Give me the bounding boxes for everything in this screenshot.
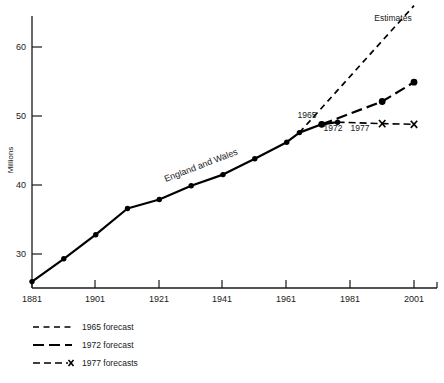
x-tick-label-2001: 2001 xyxy=(404,294,424,304)
data-point-marker xyxy=(189,183,194,188)
y-tick-label-50: 50 xyxy=(16,111,26,121)
legend-item-1972-forecast[interactable]: 1972 forecast xyxy=(33,340,134,350)
series-label-england-and-wales: England and Wales xyxy=(163,146,240,183)
x-tick-label-1981: 1981 xyxy=(340,294,360,304)
legend-label-1965-forecast: 1965 forecast xyxy=(82,322,134,332)
series-path xyxy=(322,82,414,124)
series-1972-forecast xyxy=(318,79,417,128)
y-tick-label-40: 40 xyxy=(16,180,26,190)
y-ticks-group: 60 50 40 30 xyxy=(16,42,42,259)
data-point-marker xyxy=(252,156,257,161)
data-point-marker xyxy=(29,279,34,284)
y-tick-label-60: 60 xyxy=(16,42,26,52)
legend-label-1972-forecast: 1972 forecast xyxy=(82,340,134,350)
series-1965-forecast xyxy=(299,6,414,133)
series-england-and-wales xyxy=(29,120,340,285)
legend-item-1965-forecast[interactable]: 1965 forecast xyxy=(33,322,134,332)
chart-svg: 60 50 40 30 Millions 1881 1901 1921 1941… xyxy=(0,0,444,383)
x-tick-label-1921: 1921 xyxy=(149,294,169,304)
population-forecast-chart: 60 50 40 30 Millions 1881 1901 1921 1941… xyxy=(0,0,444,383)
data-point-marker xyxy=(379,98,386,105)
annotation-1977: 1977 xyxy=(351,123,370,133)
data-point-marker xyxy=(93,232,98,237)
series-1977-forecasts xyxy=(338,120,418,128)
x-tick-label-1961: 1961 xyxy=(276,294,296,304)
annotation-1965: 1965 xyxy=(298,110,317,120)
x-ticks-group: 1881 1901 1921 1941 1961 1981 2001 xyxy=(22,280,424,304)
series-layer xyxy=(29,6,417,285)
annotation-estimates: Estimates xyxy=(374,13,411,23)
data-point-marker xyxy=(284,140,289,145)
x-tick-label-1881: 1881 xyxy=(22,294,42,304)
legend-label-1977-forecasts: 1977 forecasts xyxy=(82,358,138,368)
data-point-marker xyxy=(411,79,418,86)
data-point-x-marker-icon xyxy=(411,121,417,128)
series-path xyxy=(32,122,338,281)
data-point-marker xyxy=(61,256,66,261)
legend: 1965 forecast 1972 forecast 1977 forecas… xyxy=(33,322,138,368)
x-tick-label-1941: 1941 xyxy=(212,294,232,304)
series-path xyxy=(338,122,414,124)
series-path xyxy=(299,6,414,133)
legend-x-marker-icon xyxy=(69,360,74,366)
y-tick-label-30: 30 xyxy=(16,249,26,259)
annotation-1972: 1972 xyxy=(324,123,343,133)
data-point-marker xyxy=(157,197,162,202)
annotations-group: England and Wales Estimates 1965 1972 19… xyxy=(163,13,412,184)
x-tick-label-1901: 1901 xyxy=(85,294,105,304)
legend-item-1977-forecasts[interactable]: 1977 forecasts xyxy=(33,358,138,368)
y-axis-title: Millions xyxy=(6,147,15,174)
data-point-marker xyxy=(220,172,225,177)
data-point-marker xyxy=(125,206,130,211)
